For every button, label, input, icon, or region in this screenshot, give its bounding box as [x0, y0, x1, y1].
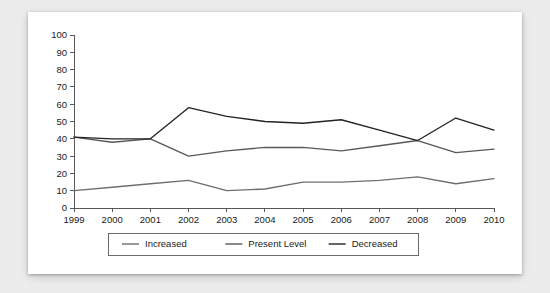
legend-label-decreased: Decreased	[352, 238, 398, 249]
x-tick-label: 2008	[407, 214, 428, 225]
x-tick-label: 2001	[140, 214, 161, 225]
x-tick-label: 2007	[369, 214, 390, 225]
series-line-increased	[74, 177, 494, 191]
chart-svg: 0102030405060708090100 19992000200120022…	[28, 12, 522, 274]
x-tick-label: 2010	[483, 214, 504, 225]
x-axis: 1999200020012002200320042005200620072008…	[63, 208, 504, 225]
y-axis: 0102030405060708090100	[51, 29, 74, 213]
x-tick-label: 2004	[254, 214, 275, 225]
y-tick-label: 80	[56, 64, 67, 75]
chart-legend: IncreasedPresent LevelDecreased	[108, 233, 418, 255]
x-tick-label: 2003	[216, 214, 237, 225]
y-tick-label: 0	[62, 202, 67, 213]
series-line-present-level	[74, 137, 494, 156]
y-tick-label: 90	[56, 47, 67, 58]
y-tick-label: 10	[56, 185, 67, 196]
x-tick-label: 2006	[331, 214, 352, 225]
y-tick-label: 100	[51, 29, 67, 40]
chart-card: 0102030405060708090100 19992000200120022…	[28, 12, 522, 274]
series-line-decreased	[74, 108, 494, 141]
x-tick-label: 1999	[63, 214, 84, 225]
x-tick-label: 2009	[445, 214, 466, 225]
x-tick-label: 2000	[102, 214, 123, 225]
legend-label-present-level: Present Level	[248, 238, 306, 249]
y-tick-label: 50	[56, 116, 67, 127]
y-tick-label: 60	[56, 99, 67, 110]
x-tick-label: 2005	[293, 214, 314, 225]
y-tick-label: 20	[56, 168, 67, 179]
legend-label-increased: Increased	[145, 238, 187, 249]
line-chart: 0102030405060708090100 19992000200120022…	[28, 12, 522, 274]
x-tick-label: 2002	[178, 214, 199, 225]
y-tick-label: 30	[56, 151, 67, 162]
y-tick-label: 40	[56, 133, 67, 144]
y-tick-label: 70	[56, 81, 67, 92]
series-lines	[74, 108, 494, 191]
